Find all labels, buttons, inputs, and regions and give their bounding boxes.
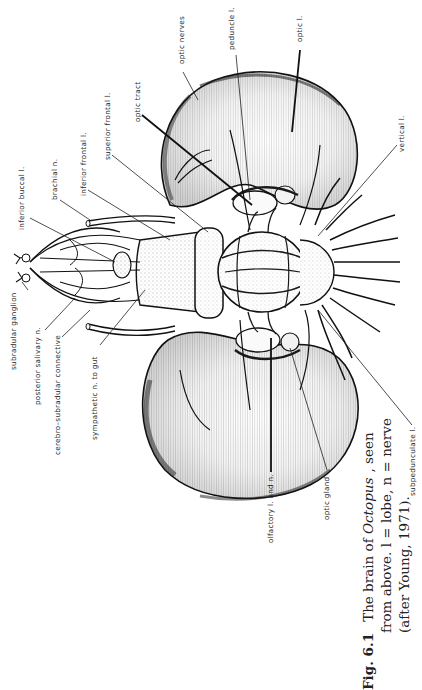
optic-lobe-top bbox=[161, 72, 357, 215]
label-optic-tract: optic tract bbox=[133, 82, 142, 122]
caption-line2: from above. l = lobe, n = nerve bbox=[378, 418, 394, 633]
label-peduncle: peduncle l. bbox=[227, 7, 236, 50]
figure-number: Fig. 6.1 bbox=[360, 633, 376, 690]
optic-lobe-bottom bbox=[143, 328, 359, 499]
label-inferior-frontal: inferior frontal l. bbox=[79, 132, 88, 196]
label-optic-nerves: optic nerves bbox=[177, 16, 186, 64]
label-vertical: vertical l. bbox=[397, 115, 406, 152]
label-optic-lobe: optic l. bbox=[295, 15, 304, 42]
label-inferior-buccal: inferior buccal l. bbox=[17, 167, 26, 230]
octopus-brain-figure: inferior buccal l. brachial n. inferior … bbox=[0, 0, 422, 690]
label-cerebro-subradular: cerebro–subradular connective bbox=[53, 335, 62, 455]
svg-text:Fig. 6.1 The brain of: Fig. 6.1 The brain of Octopus , seen bbox=[358, 432, 377, 690]
label-olfactory: olfactory l. and n. bbox=[266, 474, 275, 543]
caption-line1-post: , seen bbox=[360, 432, 376, 472]
label-subpedunculate: subpedunculate l. bbox=[408, 427, 417, 496]
caption-line3: (after Young, 1971). bbox=[396, 496, 412, 633]
label-subradular-ganglion: subradular ganglion bbox=[9, 292, 18, 370]
label-posterior-salivary: posterior salivary n. bbox=[33, 327, 42, 405]
label-sympathetic: sympathetic n. to gut bbox=[90, 356, 99, 440]
central-brain bbox=[136, 208, 334, 334]
label-optic-gland: optic gland bbox=[322, 477, 331, 520]
caption-line1-pre: The brain of bbox=[360, 534, 376, 622]
figure-caption: Fig. 6.1 The brain of Octopus , seen fro… bbox=[358, 418, 412, 690]
label-brachial: brachial n. bbox=[50, 159, 59, 200]
caption-line1-italic: Octopus bbox=[360, 477, 376, 534]
label-superior-frontal: superior frontal l. bbox=[103, 92, 112, 160]
